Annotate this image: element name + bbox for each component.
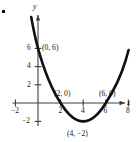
y-axis-arrow-icon <box>36 15 40 21</box>
x-tick-label-6: 6 <box>104 107 108 114</box>
graph-canvas <box>0 0 138 142</box>
x-tick-label-minus-2: −2 <box>11 107 19 114</box>
point-label-vertex: (4, −2) <box>67 130 88 138</box>
parabola-curve <box>31 17 128 121</box>
x-tick-label-8: 8 <box>126 107 130 114</box>
x-tick-label-4: 4 <box>81 107 85 114</box>
y-axis <box>36 15 40 126</box>
point-label-x-intercept-right: (6, 0) <box>99 90 115 98</box>
point-label-y-intercept: (0, 6) <box>42 44 58 52</box>
point-label-x-intercept-left: (2, 0) <box>54 90 70 98</box>
y-axis-label: y <box>33 3 36 11</box>
parabola-figure: y x 6 4 2 −2 −2 2 4 6 8 (0, 6) (2, 0) (6… <box>0 0 138 142</box>
x-tick-label-2: 2 <box>59 107 63 114</box>
y-tick-label-2: 2 <box>27 81 31 88</box>
x-axis-arrow-icon <box>120 101 126 105</box>
y-tick-label-6: 6 <box>27 44 31 51</box>
y-tick-label-4: 4 <box>27 62 31 69</box>
y-tick-label-minus-2: −2 <box>22 117 30 124</box>
